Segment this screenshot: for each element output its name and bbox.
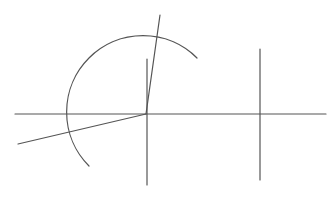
- steep-ray-line: [146, 15, 160, 114]
- lower-left-ray-line: [18, 114, 146, 144]
- circle-arc: [67, 36, 197, 166]
- geometry-diagram: [0, 0, 336, 200]
